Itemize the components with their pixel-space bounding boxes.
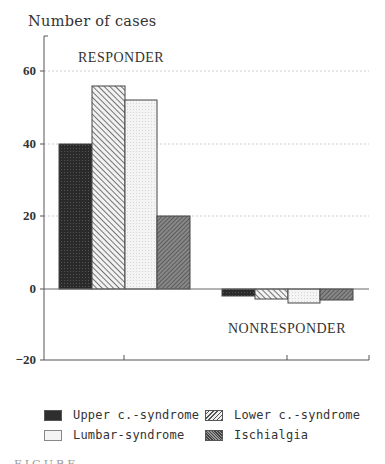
swatch-diagonal-hatch-icon xyxy=(205,410,223,421)
y-tick-40: 40 xyxy=(6,136,36,152)
nonresponder-label: NONRESPONDER xyxy=(228,321,346,337)
swatch-crosshatch-icon xyxy=(205,430,223,441)
y-tick-neg20: −20 xyxy=(6,352,36,368)
y-tick-0: 0 xyxy=(6,281,36,297)
nonresponder-bars xyxy=(222,289,353,303)
y-tick-60: 60 xyxy=(6,63,36,79)
bar-nonresponder-lumbar xyxy=(288,289,320,303)
bar-responder-lumbar xyxy=(125,100,157,289)
bar-responder-upper xyxy=(59,144,92,289)
bar-responder-lower xyxy=(92,86,125,289)
bar-nonresponder-upper xyxy=(222,289,255,296)
x-axis xyxy=(44,355,369,360)
responder-label: RESPONDER xyxy=(78,50,164,66)
swatch-solid-dark-icon xyxy=(44,410,62,421)
y-axis xyxy=(40,36,48,360)
y-axis-label: Number of cases xyxy=(28,13,157,29)
y-tick-20: 20 xyxy=(6,208,36,224)
figure-caption-cutoff: FIGURE xyxy=(14,458,379,464)
responder-bars xyxy=(59,86,190,289)
bar-nonresponder-ischialgia xyxy=(320,289,353,300)
bar-nonresponder-lower xyxy=(255,289,288,299)
swatch-light-dotted-icon xyxy=(44,430,62,441)
bar-responder-ischialgia xyxy=(157,216,190,289)
